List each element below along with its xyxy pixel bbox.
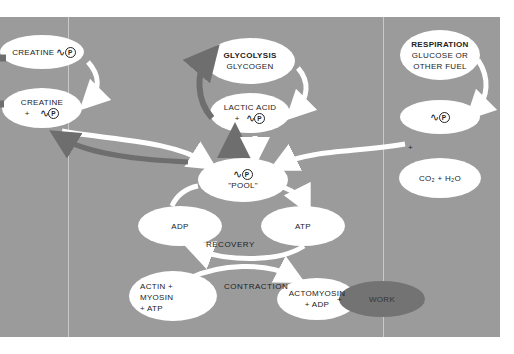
arrow-glycolysis-down: [296, 68, 306, 110]
plus-sign-respiration: +: [408, 143, 413, 152]
phosphate-bond-icon: ∿P: [246, 113, 265, 124]
node-creatine-plus-p: CREATINE + ∿P: [4, 94, 80, 122]
node-atp: ATP: [261, 218, 345, 234]
phosphate-bond-icon: ∿P: [233, 169, 252, 180]
node-adp-plus-label: + ADP: [305, 299, 329, 310]
node-work: WORK: [340, 292, 424, 306]
label-recovery: RECOVERY: [206, 240, 255, 249]
node-actin-label: ACTIN +: [140, 281, 173, 292]
plus-sign: +: [25, 108, 30, 119]
node-glycogen-label: GLYCOGEN: [226, 61, 273, 72]
node-respiration-fuel-1: GLUCOSE OR: [412, 50, 468, 61]
arrow-contraction: [190, 266, 292, 278]
node-respiration-title: RESPIRATION: [411, 39, 468, 50]
node-respiration-fuel-2: OTHER FUEL: [413, 61, 467, 72]
node-myosin-label: MYOSIN: [140, 292, 173, 303]
node-glycolysis-title: GLYCOLYSIS: [223, 50, 276, 61]
node-atp-label: ATP: [295, 221, 311, 232]
arrow-creatine-down: [88, 62, 97, 100]
node-actin-myosin: ACTIN + MYOSIN + ATP: [140, 280, 206, 314]
node-co2-h2o: CO₂ + H₂O: [399, 170, 481, 186]
node-work-label: WORK: [369, 294, 395, 305]
plus-sign: +: [235, 113, 240, 124]
node-glycolysis: GLYCOLYSIS GLYCOGEN: [205, 47, 295, 75]
node-adp: ADP: [138, 218, 222, 234]
phosphate-bond-icon: ∿P: [430, 112, 449, 123]
node-atp-plus-label: + ATP: [140, 303, 163, 314]
node-creatine-p: CREATINE ∿P: [2, 40, 86, 64]
energy-diagram: CREATINE ∿P CREATINE + ∿P GLYCOLYSIS GLY…: [0, 0, 514, 354]
node-adp-label: ADP: [171, 221, 188, 232]
node-pool: ∿P "POOL": [198, 166, 288, 194]
arrow-respiration-to-pool: [282, 144, 405, 164]
node-co2-h2o-label: CO₂ + H₂O: [419, 173, 461, 184]
node-lactic-acid: LACTIC ACID + ∿P: [210, 99, 290, 127]
phosphate-bond-icon: ∿P: [56, 47, 75, 58]
node-respiration: RESPIRATION GLUCOSE OR OTHER FUEL: [400, 37, 480, 73]
node-pool-label: "POOL": [228, 180, 258, 191]
arrow-adp-to-pool: [172, 186, 198, 206]
node-respiration-p: ∿P: [400, 107, 480, 127]
phosphate-bond-icon: ∿P: [40, 108, 59, 119]
node-creatine-p-label: CREATINE: [12, 47, 54, 58]
